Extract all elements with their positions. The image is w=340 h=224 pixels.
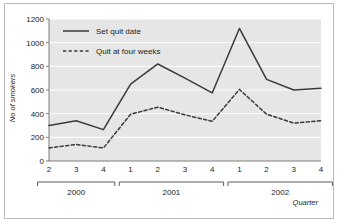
x-group-bracket xyxy=(228,182,332,186)
y-tick-label: 1200 xyxy=(26,15,44,24)
legend-label-2: Quit at four weeks xyxy=(96,47,160,56)
x-group-bracket xyxy=(38,182,115,186)
y-axis-title: No of smokers xyxy=(8,74,17,123)
x-tick-label: 3 xyxy=(183,165,188,174)
x-group-label: 2000 xyxy=(67,188,85,197)
x-group-bracket xyxy=(119,182,223,186)
x-tick-label: 1 xyxy=(237,165,242,174)
y-tick-label: 1000 xyxy=(26,39,44,48)
legend-label-1: Set quit date xyxy=(96,27,141,36)
x-group-label: 2001 xyxy=(163,188,181,197)
x-tick-label: 2 xyxy=(156,165,161,174)
y-tick-label: 0 xyxy=(40,157,45,166)
line-chart: 020040060080010001200 23412341234 200020… xyxy=(0,0,340,224)
x-tick-label: 2 xyxy=(47,165,52,174)
x-tick-labels: 23412341234 xyxy=(47,165,324,174)
x-tick-label: 3 xyxy=(292,165,297,174)
x-tick-label: 2 xyxy=(264,165,269,174)
x-tick-label: 4 xyxy=(210,165,215,174)
y-tick-labels: 020040060080010001200 xyxy=(26,15,49,166)
x-axis-title: Quarter xyxy=(293,198,319,207)
x-tick-label: 4 xyxy=(319,165,324,174)
x-group-label: 2002 xyxy=(271,188,289,197)
y-tick-label: 800 xyxy=(31,62,45,71)
x-tick-label: 4 xyxy=(101,165,106,174)
x-axis-group-brackets: 200020012002 xyxy=(38,182,333,197)
y-tick-label: 600 xyxy=(31,86,45,95)
y-tick-label: 200 xyxy=(31,133,45,142)
x-tick-label: 1 xyxy=(128,165,133,174)
y-tick-label: 400 xyxy=(31,110,45,119)
x-tick-label: 3 xyxy=(74,165,79,174)
